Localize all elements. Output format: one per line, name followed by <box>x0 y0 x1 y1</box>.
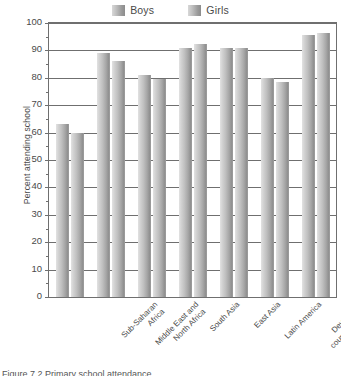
y-tick-label: 10 <box>2 263 42 274</box>
bar-group <box>138 23 166 297</box>
bar-girls <box>194 44 207 297</box>
legend-swatch-boys <box>112 5 125 16</box>
plot-area <box>48 22 337 298</box>
bar-girls <box>276 82 289 297</box>
y-tick-label: 70 <box>2 98 42 109</box>
figure-caption: Figure 7.2 Primary school attendance <box>2 369 341 376</box>
y-tick-label: 80 <box>2 71 42 82</box>
legend-entry-boys: Boys <box>112 4 154 16</box>
bar-group <box>179 23 207 297</box>
bar-boys <box>97 53 110 297</box>
bar-boys <box>220 48 233 297</box>
bar-group <box>97 23 125 297</box>
y-tick-label: 100 <box>2 16 42 27</box>
chart-container: Boys Girls Percent attending school 0102… <box>0 0 341 376</box>
bar-group <box>261 23 289 297</box>
y-tick-label: 90 <box>2 43 42 54</box>
bar-group <box>220 23 248 297</box>
legend-swatch-girls <box>188 5 201 16</box>
y-tick-mark <box>45 297 49 298</box>
bar-group <box>302 23 330 297</box>
x-axis-labels: Sub-Saharan AfricaMiddle East and North … <box>48 300 337 376</box>
bars-layer <box>49 23 336 297</box>
bar-girls <box>317 33 330 297</box>
y-tick-label: 0 <box>2 290 42 301</box>
bar-girls <box>112 61 125 297</box>
bar-boys <box>138 75 151 297</box>
bar-girls <box>235 48 248 297</box>
legend-label-girls: Girls <box>206 4 229 16</box>
chart-legend: Boys Girls <box>0 2 341 18</box>
y-tick-label: 40 <box>2 180 42 191</box>
bar-boys <box>302 35 315 297</box>
y-tick-label: 50 <box>2 153 42 164</box>
legend-entry-girls: Girls <box>188 4 229 16</box>
y-tick-label: 20 <box>2 235 42 246</box>
bar-boys <box>179 48 192 297</box>
bar-boys <box>56 124 69 297</box>
bar-girls <box>153 79 166 297</box>
y-tick-label: 30 <box>2 208 42 219</box>
bar-boys <box>261 78 274 297</box>
bar-girls <box>71 133 84 297</box>
legend-label-boys: Boys <box>130 4 154 16</box>
bar-group <box>56 23 84 297</box>
y-tick-label: 60 <box>2 126 42 137</box>
